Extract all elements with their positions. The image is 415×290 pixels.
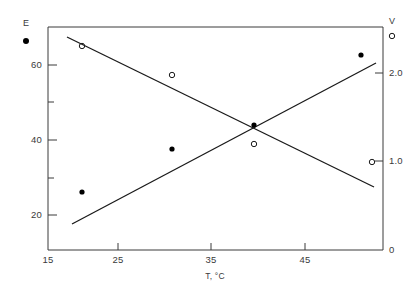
legend-marker-V	[389, 33, 394, 38]
x-tick-45: 45	[295, 254, 315, 265]
x-tick-25: 25	[108, 254, 128, 265]
x-tick-15: 15	[38, 254, 58, 265]
plot-frame	[48, 27, 383, 250]
y-tick-left-60: 60	[20, 59, 42, 70]
data-point	[251, 122, 256, 127]
series-V-fit-line	[67, 37, 374, 187]
data-point	[79, 189, 84, 194]
y-axis-title-left: E	[23, 18, 29, 28]
y-tick-right-1: 1.0	[389, 155, 403, 166]
data-point	[358, 52, 363, 57]
open-circle-icon	[389, 33, 394, 38]
x-axis-title: T, °C	[165, 271, 265, 281]
series-E-points	[79, 52, 363, 194]
data-point	[169, 146, 174, 151]
y-tick-right-0: 0	[389, 244, 394, 255]
chart-figure	[0, 0, 415, 290]
filled-circle-icon	[23, 38, 29, 44]
series-V-points	[79, 43, 374, 164]
legend-marker-E	[23, 38, 29, 44]
data-point	[251, 141, 256, 146]
y-axis-right-ticks	[375, 73, 383, 161]
y-tick-left-20: 20	[20, 209, 42, 220]
data-point	[169, 72, 174, 77]
y-tick-right-2: 2.0	[389, 67, 403, 78]
data-point	[369, 159, 374, 164]
y-tick-left-40: 40	[20, 134, 42, 145]
y-axis-left-ticks	[48, 65, 57, 215]
y-axis-title-right: V	[389, 16, 395, 26]
series-E-fit-line	[72, 63, 376, 224]
x-tick-35: 35	[201, 254, 221, 265]
x-axis-ticks	[118, 243, 305, 250]
